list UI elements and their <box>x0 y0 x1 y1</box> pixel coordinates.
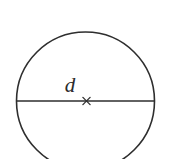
figure-canvas: d <box>0 0 170 159</box>
circle-diameter-figure: d <box>0 0 170 159</box>
diameter-label: d <box>65 73 76 97</box>
